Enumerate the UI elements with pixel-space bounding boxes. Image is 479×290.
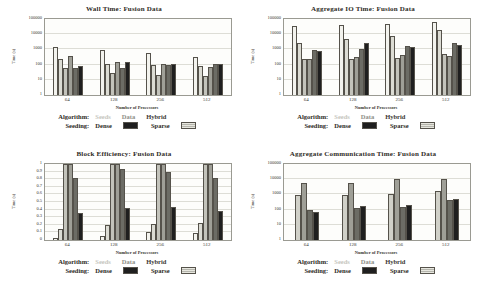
bar xyxy=(313,212,319,240)
bar-group xyxy=(92,164,139,240)
bar xyxy=(364,43,369,95)
legend-seeding-row: Seeding:DenseSparse xyxy=(288,122,447,129)
seeding-swatch-dense xyxy=(362,267,377,274)
seeding-swatch-dense xyxy=(362,122,377,129)
bar xyxy=(317,51,322,95)
chart-body: 00.10.20.30.40.50.60.70.80.9164128256512… xyxy=(8,147,240,290)
x-axis-label: Number of Processors xyxy=(44,105,230,110)
chart-aggregate-communication-time: Aggregate Communication Time: Fusion Dat… xyxy=(247,147,479,290)
bar-group xyxy=(377,19,424,95)
bar-group xyxy=(185,19,232,95)
legend-algorithm-entry: Hybrid xyxy=(385,258,405,265)
legend-algorithm-entry: Hybrid xyxy=(146,258,166,265)
bar-group xyxy=(45,19,92,95)
x-tick-label: 64 xyxy=(44,97,91,102)
seeding-swatch-dense xyxy=(123,267,138,274)
x-tick-label: 256 xyxy=(376,97,423,102)
y-axis-label: Time (s) xyxy=(11,18,16,94)
legend-algorithm-row: Algorithm:SeedsDataHybrid xyxy=(288,113,447,120)
chart-body: 11010010001000010000064128256512Time (s)… xyxy=(247,147,479,290)
bar xyxy=(125,208,130,240)
legend: Algorithm:SeedsDataHybridSeeding:DenseSp… xyxy=(28,113,230,131)
bar-group xyxy=(377,164,424,240)
legend-seeding-entry: Sparse xyxy=(151,122,170,129)
legend-rows: Algorithm:SeedsDataHybridSeeding:DenseSp… xyxy=(49,113,208,129)
x-axis-label: Number of Processors xyxy=(44,250,230,255)
legend-algorithm-entry: Seeds xyxy=(95,258,111,265)
seeding-swatch-dense xyxy=(123,122,138,129)
y-axis-label: Time (s) xyxy=(250,163,255,239)
legend: Algorithm:SeedsDataHybridSeeding:DenseSp… xyxy=(267,258,469,276)
plot-area xyxy=(44,163,232,241)
legend-algorithm-entry: Data xyxy=(122,113,135,120)
legend-algorithm-label: Algorithm: xyxy=(288,258,328,265)
x-tick-label: 512 xyxy=(184,242,231,247)
legend-algorithm-entry: Data xyxy=(361,258,374,265)
x-tick-label: 128 xyxy=(91,97,138,102)
legend-algorithm-entry: Hybrid xyxy=(146,113,166,120)
x-tick-label: 128 xyxy=(91,242,138,247)
x-axis-label: Number of Processors xyxy=(283,105,469,110)
legend-seeding-entry: Sparse xyxy=(390,122,409,129)
legend-rows: Algorithm:SeedsDataHybridSeeding:DenseSp… xyxy=(288,258,447,274)
x-tick-label: 512 xyxy=(184,97,231,102)
legend-algorithm-entry: Data xyxy=(361,113,374,120)
bar xyxy=(171,64,176,95)
legend-algorithm-entry: Seeds xyxy=(334,258,350,265)
legend-algorithm-entry: Data xyxy=(122,258,135,265)
legend-algorithm-row: Algorithm:SeedsDataHybrid xyxy=(49,258,208,265)
bar-group xyxy=(331,19,378,95)
x-tick-label: 256 xyxy=(376,242,423,247)
bar-group xyxy=(45,164,92,240)
seeding-swatch-sparse xyxy=(420,267,435,274)
legend-seeding-entry: Dense xyxy=(95,122,112,129)
chart-body: 11010010001000010000064128256512Time (s)… xyxy=(247,2,479,145)
chart-block-efficiency: Block Efficiency: Fusion Data 00.10.20.3… xyxy=(8,147,240,290)
plot-area xyxy=(283,163,471,241)
legend-seeding-entry: Dense xyxy=(334,122,351,129)
bar xyxy=(171,207,176,240)
x-tick-label: 256 xyxy=(137,97,184,102)
bar xyxy=(218,211,223,240)
bar xyxy=(78,213,83,240)
plot-area xyxy=(44,18,232,96)
plot-area xyxy=(283,18,471,96)
bar-group xyxy=(284,19,331,95)
bar xyxy=(360,206,366,240)
x-tick-label: 64 xyxy=(283,97,330,102)
bar-group xyxy=(424,19,471,95)
y-axis-label: Time (s) xyxy=(11,163,16,239)
legend-algorithm-label: Algorithm: xyxy=(288,113,328,120)
x-axis-label: Number of Processors xyxy=(283,250,469,255)
bar-group xyxy=(92,19,139,95)
legend-algorithm-label: Algorithm: xyxy=(49,113,89,120)
legend-seeding-row: Seeding:DenseSparse xyxy=(49,122,208,129)
bar-group xyxy=(185,164,232,240)
legend-seeding-label: Seeding: xyxy=(49,122,89,129)
bar xyxy=(406,205,412,240)
bar-group xyxy=(138,19,185,95)
figure-fusion-benchmarks: Wall Time: Fusion Data 11010010001000010… xyxy=(0,0,479,290)
x-tick-label: 128 xyxy=(330,242,377,247)
legend: Algorithm:SeedsDataHybridSeeding:DenseSp… xyxy=(267,113,469,131)
x-tick-label: 512 xyxy=(423,242,470,247)
legend: Algorithm:SeedsDataHybridSeeding:DenseSp… xyxy=(28,258,230,276)
chart-wall-time: Wall Time: Fusion Data 11010010001000010… xyxy=(8,2,240,145)
x-tick-label: 64 xyxy=(283,242,330,247)
legend-seeding-row: Seeding:DenseSparse xyxy=(288,267,447,274)
bar xyxy=(453,199,459,240)
x-tick-label: 64 xyxy=(44,242,91,247)
seeding-swatch-sparse xyxy=(181,267,196,274)
legend-seeding-entry: Dense xyxy=(334,267,351,274)
legend-algorithm-entry: Seeds xyxy=(95,113,111,120)
chart-body: 11010010001000010000064128256512Time (s)… xyxy=(8,2,240,145)
legend-algorithm-label: Algorithm: xyxy=(49,258,89,265)
legend-seeding-label: Seeding: xyxy=(288,122,328,129)
legend-seeding-label: Seeding: xyxy=(288,267,328,274)
bar-group xyxy=(424,164,471,240)
seeding-swatch-sparse xyxy=(420,122,435,129)
legend-algorithm-row: Algorithm:SeedsDataHybrid xyxy=(49,113,208,120)
legend-seeding-entry: Dense xyxy=(95,267,112,274)
bar xyxy=(78,66,83,95)
legend-seeding-label: Seeding: xyxy=(49,267,89,274)
